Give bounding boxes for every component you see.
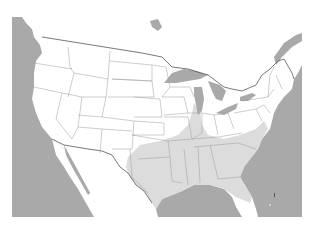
us-map (12, 17, 302, 217)
island (269, 204, 271, 206)
map-canvas (12, 17, 302, 217)
island (274, 193, 275, 197)
